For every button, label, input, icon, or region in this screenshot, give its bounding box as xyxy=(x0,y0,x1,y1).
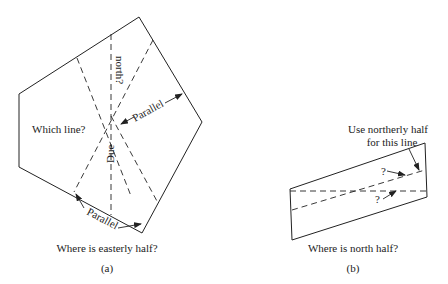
panel-b: Use northerly half for this line ? ? Whe… xyxy=(290,123,428,275)
label-use-northerly-1: Use northerly half xyxy=(348,123,428,135)
tag-a: (a) xyxy=(101,262,114,275)
label-north: north? xyxy=(114,56,126,84)
label-parallel-top: Parallel xyxy=(130,97,165,124)
label-due: Due xyxy=(104,145,116,163)
dashed-line-right-lower xyxy=(111,116,158,203)
diagram-canvas: north? Due Which line? Parallel Parallel… xyxy=(0,0,448,284)
arrow-q2 xyxy=(383,191,396,199)
caption-a: Where is easterly half? xyxy=(56,242,157,254)
tag-b: (b) xyxy=(347,262,360,275)
parallel-arrow-bottom-right xyxy=(118,224,141,228)
arrow-q1 xyxy=(387,171,405,175)
label-q2: ? xyxy=(375,193,380,205)
tract-parallelogram-b xyxy=(290,143,427,240)
label-parallel-bottom: Parallel xyxy=(85,205,120,231)
parallel-arrow-top-right xyxy=(165,94,182,103)
arrow-use-northerly xyxy=(409,149,419,170)
label-use-northerly-2: for this line xyxy=(367,136,418,148)
caption-b: Where is north half? xyxy=(308,242,398,254)
panel-a: north? Due Which line? Parallel Parallel… xyxy=(19,17,202,275)
label-which-line: Which line? xyxy=(32,123,86,135)
label-q1: ? xyxy=(381,165,386,177)
